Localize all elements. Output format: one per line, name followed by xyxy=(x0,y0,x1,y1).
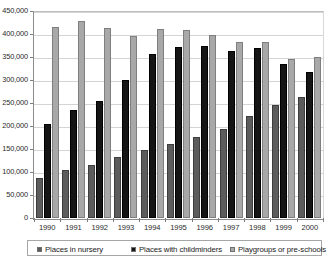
bar-group-1992 xyxy=(87,12,113,218)
bar[interactable] xyxy=(306,72,313,218)
y-tick-label: 200,000 xyxy=(2,122,28,130)
x-tick-mark xyxy=(218,218,219,222)
x-tick-mark xyxy=(297,218,298,222)
y-tick-label: 100,000 xyxy=(2,168,28,176)
chart-legend: Places in nurseryPlaces with childminder… xyxy=(27,240,322,256)
bar[interactable] xyxy=(62,170,69,218)
x-tick-mark xyxy=(270,218,271,222)
bar[interactable] xyxy=(114,157,121,218)
bar[interactable] xyxy=(220,129,227,218)
x-tick-mark xyxy=(34,218,35,222)
legend-label: Places with childminders xyxy=(139,245,222,254)
bar[interactable] xyxy=(52,27,59,218)
bar-group-1991 xyxy=(60,12,86,218)
bar[interactable] xyxy=(122,80,129,218)
y-axis: 050,000100,000150,000200,000250,000300,0… xyxy=(0,0,33,232)
legend-entry-2[interactable]: Playgroups or pre-schools xyxy=(230,243,326,255)
x-tick-mark xyxy=(113,218,114,222)
y-tick-label: 250,000 xyxy=(2,99,28,107)
bar[interactable] xyxy=(104,28,111,218)
x-tick-mark xyxy=(60,218,61,222)
bar[interactable] xyxy=(209,35,216,218)
bar[interactable] xyxy=(288,59,295,218)
x-tick-label-2000: 2000 xyxy=(297,223,323,232)
bar[interactable] xyxy=(228,51,235,218)
bar[interactable] xyxy=(246,116,253,218)
bar[interactable] xyxy=(44,124,51,218)
y-tick-label: 0 xyxy=(24,214,28,222)
x-tick-label-1993: 1993 xyxy=(113,223,139,232)
x-tick-mark xyxy=(244,218,245,222)
bar[interactable] xyxy=(183,30,190,218)
bar[interactable] xyxy=(298,97,305,218)
x-tick-mark xyxy=(87,218,88,222)
x-tick-label-1992: 1992 xyxy=(87,223,113,232)
bar[interactable] xyxy=(130,36,137,218)
y-tick-label: 150,000 xyxy=(2,145,28,153)
bar[interactable] xyxy=(236,42,243,218)
x-tick-label-1991: 1991 xyxy=(60,223,86,232)
bar-group-1997 xyxy=(218,12,244,218)
bar[interactable] xyxy=(149,54,156,218)
legend-entry-0[interactable]: Places in nursery xyxy=(37,243,103,255)
bar[interactable] xyxy=(88,165,95,218)
bar-group-1998 xyxy=(244,12,270,218)
x-tick-label-1994: 1994 xyxy=(139,223,165,232)
bar[interactable] xyxy=(272,105,279,218)
bar[interactable] xyxy=(280,64,287,218)
bar[interactable] xyxy=(262,42,269,218)
bar-group-1999 xyxy=(270,12,296,218)
bar-series-container xyxy=(34,12,322,218)
bar-chart-figure: 050,000100,000150,000200,000250,000300,0… xyxy=(0,0,333,260)
bar-group-1993 xyxy=(113,12,139,218)
x-tick-label-1995: 1995 xyxy=(165,223,191,232)
x-tick-mark xyxy=(192,218,193,222)
bar[interactable] xyxy=(36,178,43,218)
bar[interactable] xyxy=(167,144,174,218)
x-tick-mark xyxy=(139,218,140,222)
legend-swatch-childminders-icon xyxy=(131,247,136,252)
x-axis: 1990199119921993199419951996199719981999… xyxy=(33,218,323,236)
bar[interactable] xyxy=(70,110,77,218)
bar[interactable] xyxy=(141,150,148,218)
legend-swatch-playgroups-icon xyxy=(230,247,235,252)
legend-entry-1[interactable]: Places with childminders xyxy=(131,243,222,255)
y-tick-label: 50,000 xyxy=(6,191,28,199)
bar-group-1990 xyxy=(34,12,60,218)
bar[interactable] xyxy=(201,46,208,219)
legend-label: Playgroups or pre-schools xyxy=(238,245,326,254)
y-tick-label: 450,000 xyxy=(2,7,28,15)
bar-group-1994 xyxy=(139,12,165,218)
y-tick-label: 400,000 xyxy=(2,30,28,38)
x-tick-mark xyxy=(323,218,324,222)
bar[interactable] xyxy=(96,101,103,218)
bar[interactable] xyxy=(78,21,85,218)
x-tick-label-1997: 1997 xyxy=(218,223,244,232)
x-tick-label-1998: 1998 xyxy=(244,223,270,232)
x-tick-label-1996: 1996 xyxy=(192,223,218,232)
bar[interactable] xyxy=(193,137,200,218)
legend-swatch-nursery-icon xyxy=(37,247,42,252)
bar[interactable] xyxy=(314,57,321,218)
legend-label: Places in nursery xyxy=(45,245,103,254)
bar-group-1996 xyxy=(192,12,218,218)
y-tick-label: 300,000 xyxy=(2,76,28,84)
bar-group-2000 xyxy=(297,12,323,218)
x-tick-mark xyxy=(165,218,166,222)
x-tick-label-1999: 1999 xyxy=(270,223,296,232)
bar-group-1995 xyxy=(165,12,191,218)
y-tick-label: 350,000 xyxy=(2,53,28,61)
bar[interactable] xyxy=(157,29,164,218)
x-tick-label-1990: 1990 xyxy=(34,223,60,232)
bar[interactable] xyxy=(254,48,261,218)
bar[interactable] xyxy=(175,47,182,218)
